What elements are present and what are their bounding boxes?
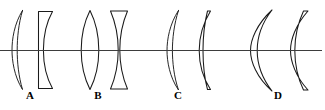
group-label-d: D	[268, 90, 288, 101]
lens-diagram-figure: A B C D	[0, 0, 325, 110]
group-label-b: B	[88, 90, 108, 101]
group-label-a: A	[20, 90, 40, 101]
group-label-c: C	[168, 90, 188, 101]
